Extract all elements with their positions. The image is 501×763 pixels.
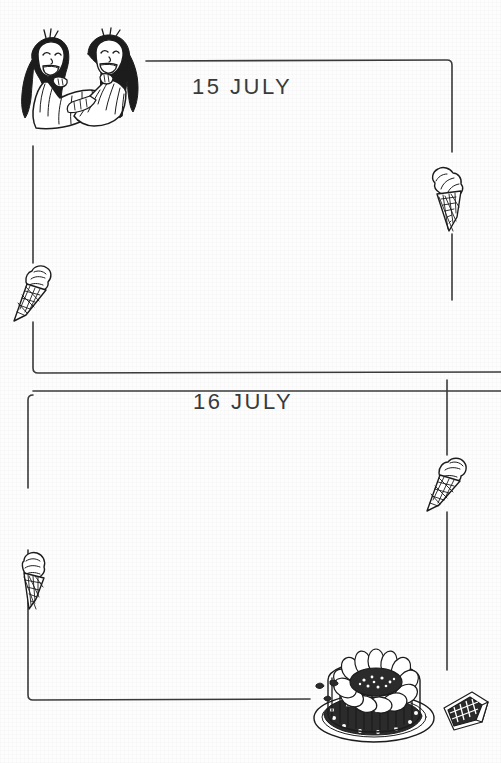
ice-cream-cone-icon-right-bottom [418,452,472,518]
two-girls-laughing-illustration [14,24,146,140]
diary-page: 15 JULY 16 JULY [0,0,501,763]
entry-date-16-july: 16 JULY [193,389,293,415]
ice-cream-cone-icon-right-top [423,163,471,239]
ice-cream-cone-icon-left-top [6,257,58,329]
ice-cream-cone-icon-left-bottom [8,547,62,617]
entry-date-15-july: 15 JULY [192,74,292,100]
entry-writing-area-16-july[interactable] [36,420,436,670]
chocolate-bar-illustration [438,686,492,736]
cake-crumbs-decoration [312,676,348,712]
